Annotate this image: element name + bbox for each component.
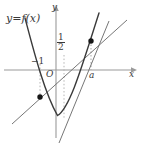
fraction-numerator: 1: [57, 33, 65, 42]
y-axis-label: y: [52, 3, 57, 12]
fraction-denominator: 2: [57, 43, 65, 52]
tangent-line-at-a: [59, 21, 109, 143]
x-tick-label-minus-one: −1: [31, 57, 44, 66]
origin-label: O: [46, 70, 53, 79]
marker-right-intersection: [88, 38, 93, 43]
x-axis-label: x: [129, 70, 134, 79]
math-figure-parabola-secant-tangent: y=f(x) y x O −1 a 1 2: [0, 0, 141, 143]
curve-label-y-equals-f-of-x: y=f(x): [6, 13, 40, 24]
fraction-one-half: 1 2: [57, 33, 65, 53]
x-tick-label-one-half: 1 2: [57, 33, 65, 53]
x-tick-label-a: a: [89, 71, 94, 80]
marker-left-intersection: [37, 94, 42, 99]
